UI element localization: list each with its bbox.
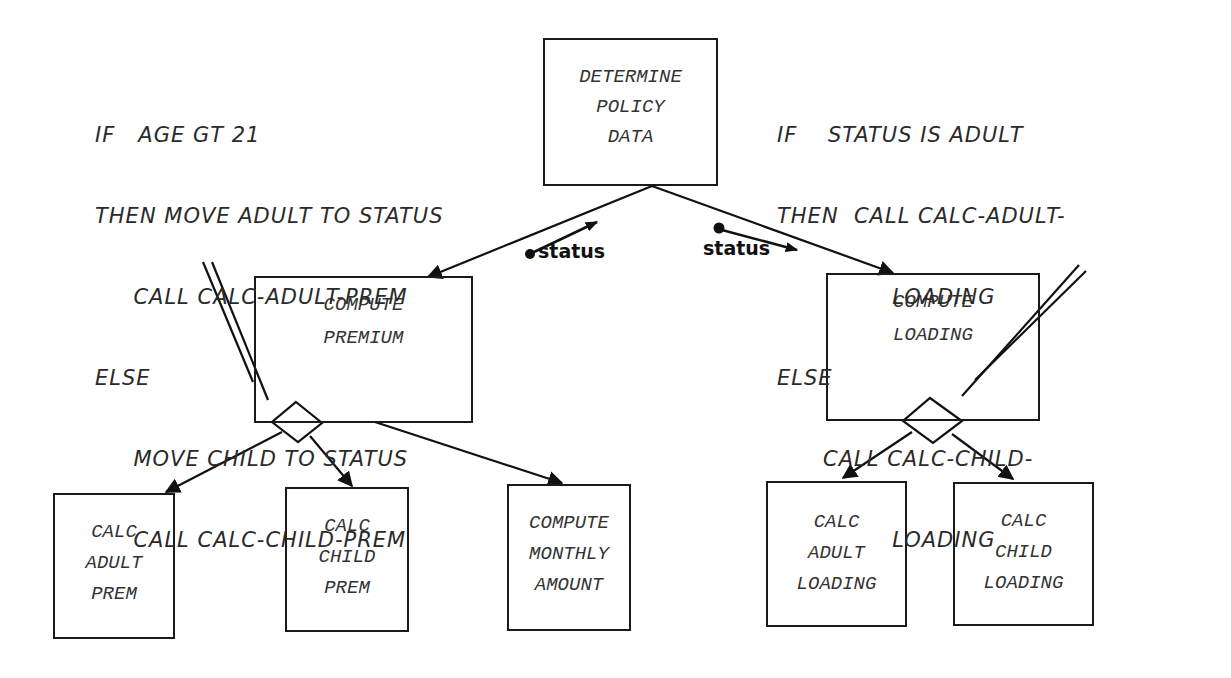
node-determine-policy-data: DETERMINE POLICY DATA — [543, 38, 718, 186]
pseudocode-left: IF AGE GT 21 THEN MOVE ADULT TO STATUS C… — [95, 68, 444, 581]
pseudocode-line: IF STATUS IS ADULT — [777, 122, 1066, 149]
pseudocode-line: CALL CALC-CHILD-PREM — [95, 527, 444, 554]
pseudocode-line: CALL CALC-CHILD- — [777, 446, 1066, 473]
couple-label-right: status — [703, 237, 770, 259]
node-label: DETERMINE — [545, 62, 716, 92]
node-compute-monthly-amount: COMPUTE MONTHLY AMOUNT — [507, 484, 631, 631]
node-label: COMPUTE — [509, 508, 629, 538]
node-label: MONTHLY — [509, 539, 629, 569]
node-label: PREM — [55, 579, 173, 609]
node-label: AMOUNT — [509, 570, 629, 600]
pseudocode-right: IF STATUS IS ADULT THEN CALL CALC-ADULT-… — [777, 68, 1066, 581]
pseudocode-line: THEN MOVE ADULT TO STATUS — [95, 203, 444, 230]
pseudocode-line: ELSE — [777, 365, 1066, 392]
pseudocode-line: CALL CALC-ADULT-PREM — [95, 284, 444, 311]
pseudocode-line: MOVE CHILD TO STATUS — [95, 446, 444, 473]
node-label: DATA — [545, 122, 716, 152]
node-label: POLICY — [545, 92, 716, 122]
edge-determine-to-premium — [428, 186, 652, 277]
pseudocode-line: ELSE — [95, 365, 444, 392]
pseudocode-line: LOADING — [777, 284, 1066, 311]
pseudocode-line: LOADING — [777, 527, 1066, 554]
pseudocode-line: THEN CALL CALC-ADULT- — [777, 203, 1066, 230]
couple-label-left: status — [538, 240, 605, 262]
pseudocode-line: IF AGE GT 21 — [95, 122, 444, 149]
